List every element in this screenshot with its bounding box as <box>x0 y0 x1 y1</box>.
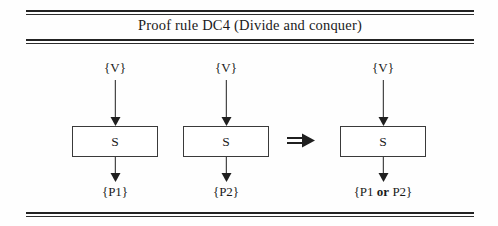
bottom-double-rule <box>26 212 474 217</box>
postcondition-label: {P2} <box>161 184 291 200</box>
rule-line-thin <box>26 216 474 217</box>
arrow-shaft <box>225 157 226 174</box>
rule-line-thin <box>26 43 474 44</box>
flow-down-arrow-icon <box>110 80 121 126</box>
figure-title: Proof rule DC4 (Divide and conquer) <box>26 17 474 34</box>
implies-arrow-icon <box>286 133 316 149</box>
arrow-shaft <box>382 80 383 118</box>
statement-label: S <box>73 127 157 156</box>
rule-line-thick <box>26 10 474 12</box>
rule-line-thick <box>26 212 474 214</box>
rule-line-thick <box>26 39 474 41</box>
top-double-rule <box>26 10 474 15</box>
flow-down-arrow-icon <box>110 157 121 183</box>
arrow-head <box>110 117 120 126</box>
postcondition-text: {P2} <box>213 184 239 199</box>
title-separator-double-rule <box>26 39 474 44</box>
statement-label: S <box>184 127 268 156</box>
arrow-head <box>221 173 231 182</box>
arrow-shaft <box>114 80 115 118</box>
arrow-head <box>378 117 388 126</box>
proof-rule-figure: Proof rule DC4 (Divide and conquer) {V} … <box>0 0 498 226</box>
postcondition-label: {P1 or P2} <box>318 184 448 200</box>
arrow-shaft <box>114 157 115 174</box>
arrow-shaft <box>382 157 383 174</box>
flow-down-arrow-icon <box>378 80 389 126</box>
flow-down-arrow-icon <box>378 157 389 183</box>
precondition-label: {V} <box>318 60 448 76</box>
statement-box: S <box>340 126 426 157</box>
arrow-head <box>378 173 388 182</box>
arrow-head <box>221 117 231 126</box>
flow-down-arrow-icon <box>221 80 232 126</box>
premise-2-column: {V} S {P2} <box>161 58 291 208</box>
postcondition-text: P2} <box>389 184 412 199</box>
postcondition-text: {P1 <box>354 184 377 199</box>
arrow-shaft <box>225 80 226 118</box>
postcondition-text: {P1} <box>102 184 128 199</box>
flow-down-arrow-icon <box>221 157 232 183</box>
statement-box: S <box>72 126 158 157</box>
statement-label: S <box>341 127 425 156</box>
conclusion-column: {V} S {P1 or P2} <box>318 58 448 208</box>
statement-box: S <box>183 126 269 157</box>
postcondition-operator: or <box>377 184 389 199</box>
precondition-label: {V} <box>161 60 291 76</box>
arrow-head <box>110 173 120 182</box>
rule-line-thin <box>26 14 474 15</box>
